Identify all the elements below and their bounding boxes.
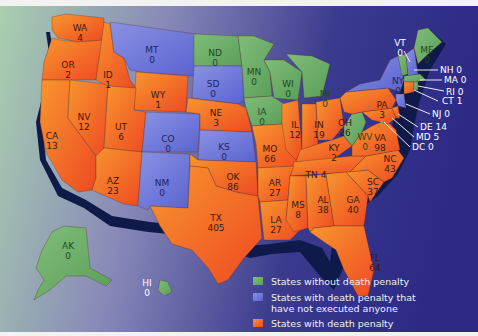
us-death-penalty-map: WA4 OR2 ID1 MT0 WY1 ND0 SD0 NE3 MN0 IA0 …: [0, 6, 478, 332]
state-OR[interactable]: [42, 38, 104, 80]
label-IN: IN19: [313, 120, 325, 140]
label-CA: CA13: [46, 131, 59, 151]
legend-swatch-no-executions: [253, 293, 263, 301]
callout-DE: DE 14: [420, 122, 447, 132]
label-NC: NC43: [383, 154, 396, 174]
label-LA: LA27: [270, 215, 282, 235]
legend-label-no-penalty: States without death penalty: [271, 276, 409, 287]
label-GA: GA40: [346, 195, 360, 215]
label-TN: TN 4: [305, 170, 327, 180]
callout-CT: CT 1: [442, 96, 462, 106]
callout-DC: DC 0: [412, 142, 434, 152]
state-RI[interactable]: [414, 82, 418, 90]
legend-swatch-no-penalty: [253, 277, 263, 285]
callout-NJ: NJ 0: [432, 109, 450, 119]
legend-label-with-penalty: States with death penalty: [271, 318, 394, 329]
label-AZ: AZ23: [107, 176, 119, 196]
label-NV: NV12: [78, 112, 92, 132]
label-MO: MO66: [263, 144, 278, 164]
legend: States without death penalty States with…: [253, 276, 416, 329]
label-OK: OK86: [227, 172, 241, 192]
state-DC[interactable]: [381, 121, 384, 124]
label-AL: AL38: [317, 195, 329, 215]
state-CO[interactable]: [142, 112, 200, 152]
label-OH: OH26: [338, 118, 352, 138]
state-CT[interactable]: [404, 82, 414, 94]
bottom-margin: [0, 332, 478, 336]
label-SC: SC37: [367, 177, 379, 197]
callout-MD: MD 5: [416, 132, 439, 142]
legend-label-no-executions: States with death penalty that: [271, 292, 416, 303]
legend-swatch-with-penalty: [253, 319, 263, 327]
callout-MA: MA 0: [444, 75, 467, 85]
label-AR: AR27: [269, 178, 281, 198]
legend-label-no-executions-line2: have not executed anyone: [271, 303, 398, 314]
callout-NH: NH 0: [440, 65, 462, 75]
label-VA: VA98: [374, 133, 387, 153]
label-FL: FL64: [369, 253, 381, 273]
